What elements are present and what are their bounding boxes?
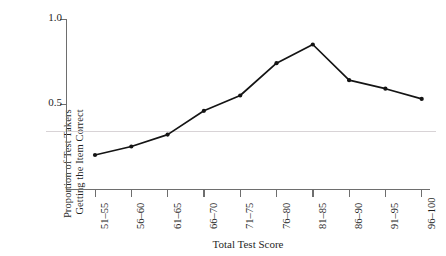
data-point xyxy=(274,61,278,65)
data-point xyxy=(93,153,97,157)
data-point xyxy=(383,87,387,91)
data-point xyxy=(166,133,170,137)
x-axis-label: Total Test Score xyxy=(66,238,430,250)
data-point xyxy=(420,97,424,101)
data-point xyxy=(347,78,351,82)
data-point xyxy=(129,144,133,148)
chart-container: Proportion of Test Takers Getting the It… xyxy=(0,0,446,256)
data-point xyxy=(311,42,315,46)
series-line xyxy=(95,45,422,156)
data-point xyxy=(202,109,206,113)
data-point xyxy=(238,93,242,97)
data-series-layer xyxy=(0,0,446,256)
